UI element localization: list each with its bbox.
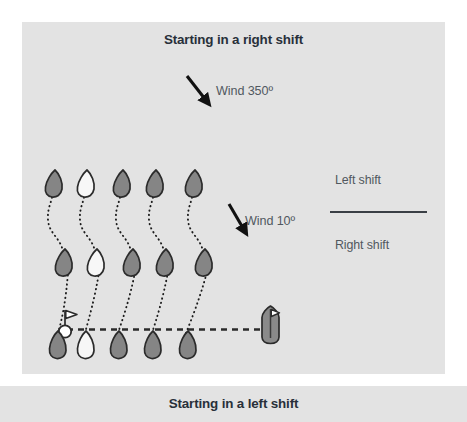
boat-hull [87, 249, 104, 276]
boat-hull [45, 170, 62, 197]
boat-hull [77, 331, 94, 359]
fleet-row-top [45, 170, 202, 197]
committee-boat [262, 306, 280, 344]
boat-hull [110, 331, 127, 359]
boat-hull [55, 249, 72, 276]
boat-hull [144, 331, 161, 359]
boat-hull [179, 331, 196, 359]
boat-hull [185, 170, 202, 197]
track-upper-1 [48, 192, 63, 252]
diagram-canvas [0, 0, 467, 422]
fleet-row-middle [55, 249, 212, 276]
boat-hull [123, 249, 140, 276]
pin-end-buoy [59, 310, 77, 338]
boat-hull [113, 170, 130, 197]
track-lower-1 [58, 272, 68, 333]
track-upper-3 [116, 192, 131, 252]
track-lower-3 [118, 272, 135, 333]
wind-arrow-350-icon [187, 76, 205, 99]
track-upper-5 [188, 192, 203, 252]
track-lower-4 [152, 272, 168, 333]
track-upper-2 [80, 192, 95, 252]
boat-hull [77, 170, 94, 197]
wind-arrow-10-icon [229, 204, 243, 228]
track-upper-4 [149, 192, 164, 252]
track-lower-5 [186, 272, 207, 333]
track-lower-2 [85, 272, 99, 333]
fleet-row-start [49, 331, 196, 359]
boat-hull [146, 170, 163, 197]
boat-hull [156, 249, 173, 276]
boat-hull [195, 249, 212, 276]
figure-root: Starting in a right shift Starting in a … [0, 0, 467, 422]
